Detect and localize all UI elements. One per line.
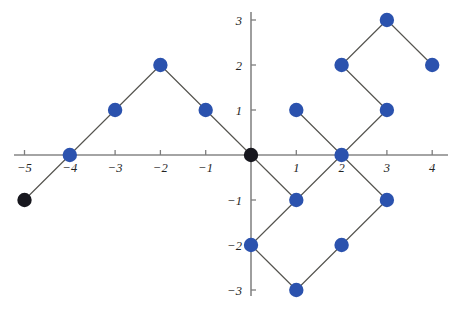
x-tick-label-1: 1 bbox=[293, 161, 299, 175]
x-tick-label-4: 4 bbox=[429, 161, 435, 175]
edge-3 bbox=[160, 65, 205, 110]
x-tick-label-2: 2 bbox=[338, 161, 344, 175]
edge-6 bbox=[251, 200, 296, 245]
data-point--4-0 bbox=[63, 148, 77, 162]
y-tick-label-2: 2 bbox=[236, 59, 242, 73]
edge-9 bbox=[342, 200, 387, 245]
edge-7 bbox=[251, 245, 296, 290]
y-tick-label--2: −2 bbox=[227, 239, 242, 253]
edge-10 bbox=[342, 155, 387, 200]
data-point-2-2 bbox=[334, 58, 348, 72]
x-axis-tick-labels: −5−4−3−2−11234 bbox=[17, 161, 435, 175]
chart-figure: −5−4−3−2−11234 −3−2−1123 bbox=[0, 0, 453, 315]
y-tick-label-1: 1 bbox=[236, 104, 242, 118]
data-point-0--2 bbox=[244, 238, 258, 252]
data-point-3-3 bbox=[380, 13, 394, 27]
edge-2 bbox=[115, 65, 160, 110]
data-point-2--2 bbox=[334, 238, 348, 252]
edge-11 bbox=[296, 155, 341, 200]
data-point--1-1 bbox=[199, 103, 213, 117]
x-tick-label--2: −2 bbox=[153, 161, 168, 175]
axes-group bbox=[14, 12, 448, 296]
data-point--5--1 bbox=[17, 193, 31, 207]
data-point-1--1 bbox=[289, 193, 303, 207]
data-point--2-2 bbox=[153, 58, 167, 72]
edge-8 bbox=[296, 245, 341, 290]
lattice-path-plot: −5−4−3−2−11234 −3−2−1123 bbox=[0, 0, 453, 315]
data-point-1-1 bbox=[289, 103, 303, 117]
data-point-4-2 bbox=[425, 58, 439, 72]
data-point--3-1 bbox=[108, 103, 122, 117]
x-tick-label--1: −1 bbox=[198, 161, 213, 175]
data-point-3-1 bbox=[380, 103, 394, 117]
y-tick-label--3: −3 bbox=[227, 284, 242, 298]
x-tick-label--5: −5 bbox=[17, 161, 32, 175]
edge-15 bbox=[342, 20, 387, 65]
data-point-2-0 bbox=[334, 148, 348, 162]
edge-14 bbox=[342, 65, 387, 110]
y-tick-label--1: −1 bbox=[227, 194, 242, 208]
data-point-1--3 bbox=[289, 283, 303, 297]
edge-12 bbox=[296, 110, 341, 155]
x-tick-label-3: 3 bbox=[383, 161, 390, 175]
edge-16 bbox=[387, 20, 432, 65]
edge-1 bbox=[70, 110, 115, 155]
x-tick-label--3: −3 bbox=[108, 161, 123, 175]
data-point-3--1 bbox=[380, 193, 394, 207]
edge-13 bbox=[342, 110, 387, 155]
y-tick-label-3: 3 bbox=[235, 14, 242, 28]
data-point-0-0 bbox=[244, 148, 258, 162]
edge-4 bbox=[206, 110, 251, 155]
edge-5 bbox=[251, 155, 296, 200]
x-tick-label--4: −4 bbox=[62, 161, 77, 175]
